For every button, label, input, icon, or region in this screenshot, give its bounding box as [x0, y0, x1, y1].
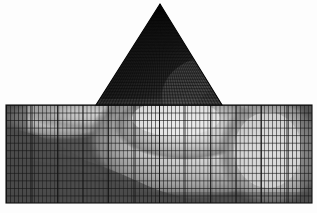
substrate-mesh [6, 105, 312, 203]
fem-contour-figure [0, 0, 317, 213]
fem-plot-canvas [0, 0, 317, 213]
